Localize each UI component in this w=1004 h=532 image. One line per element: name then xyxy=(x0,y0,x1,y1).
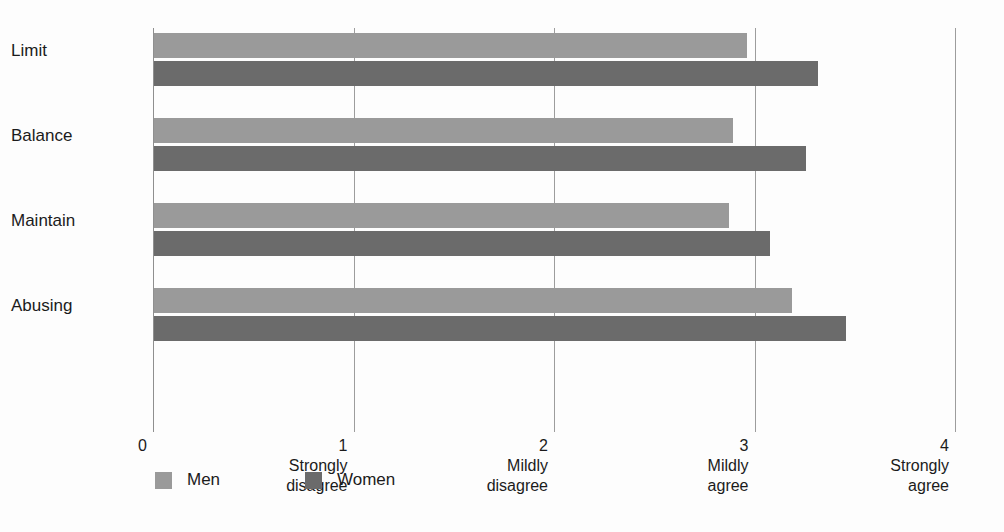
bar xyxy=(154,288,792,313)
tick-label-2: 2Mildlydisagree xyxy=(398,436,548,496)
tick-caption-line1: Strongly xyxy=(799,456,949,476)
tick-value: 1 xyxy=(198,436,348,456)
tick-caption-line1: Mildly xyxy=(398,456,548,476)
legend-item: Women xyxy=(305,470,395,490)
bar xyxy=(154,231,770,256)
bar-group xyxy=(154,198,955,255)
bar xyxy=(154,203,729,228)
bar-group xyxy=(154,283,955,340)
tick-caption-line1: Mildly xyxy=(599,456,749,476)
tick-value: 3 xyxy=(599,436,749,456)
tick-caption-line2: agree xyxy=(599,476,749,496)
bar-groups xyxy=(154,28,955,345)
bar xyxy=(154,146,806,171)
tick-label-0: 0 xyxy=(0,436,147,456)
category-label: Maintain xyxy=(0,211,127,231)
tick-label-3: 3Mildlyagree xyxy=(599,436,749,496)
bar xyxy=(154,118,733,143)
category-label: Limit xyxy=(0,41,127,61)
tick-value: 2 xyxy=(398,436,548,456)
legend-swatch-icon xyxy=(305,472,322,489)
plot-area xyxy=(153,28,955,432)
tick-label-4: 4Stronglyagree xyxy=(799,436,949,496)
category-label: Balance xyxy=(0,126,127,146)
value-axis-tick-labels: 01Stronglydisagree2Mildlydisagree3Mildly… xyxy=(0,436,1004,522)
legend-label: Women xyxy=(337,470,395,490)
legend-swatch-icon xyxy=(155,472,172,489)
tick-caption-line2: agree xyxy=(799,476,949,496)
legend-label: Men xyxy=(187,470,220,490)
bar xyxy=(154,33,747,58)
bar-group xyxy=(154,28,955,85)
legend-item: Men xyxy=(155,470,220,490)
bar xyxy=(154,61,818,86)
category-axis-labels: LimitBalanceMaintainAbusing xyxy=(0,28,140,345)
tick-caption-line2: disagree xyxy=(398,476,548,496)
gridline-4 xyxy=(955,28,956,432)
bar-group xyxy=(154,113,955,170)
tick-value: 4 xyxy=(799,436,949,456)
tick-value: 0 xyxy=(0,436,147,456)
category-label: Abusing xyxy=(0,296,127,316)
bar xyxy=(154,316,846,341)
bar-chart: LimitBalanceMaintainAbusing 01Stronglydi… xyxy=(0,0,1004,532)
